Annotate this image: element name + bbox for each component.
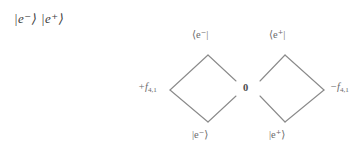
right-diamond-edge-bottom-right (285, 90, 324, 122)
diamond-diagram (0, 0, 364, 156)
right-diamond-edge-bottom-left (260, 96, 285, 122)
right-coupling-subscript: 4,1 (340, 86, 349, 94)
left-diamond-edge-top-left (170, 55, 208, 90)
left-diamond-edge-bottom-left (170, 90, 208, 122)
right-diamond-edges (260, 55, 324, 122)
left-diamond-edge-bottom-right (208, 96, 236, 122)
left-diamond-ket-label: |e⁻⟩ (192, 130, 208, 141)
figure-canvas: |e⁻⟩ |e⁺⟩ ⟨e⁻| ⟨e⁺| |e⁻⟩ |e⁺⟩ +f4,1 −f4,… (0, 0, 364, 156)
right-diamond-ket-label: |e⁺⟩ (269, 130, 285, 141)
right-coupling-label: −f4,1 (330, 82, 349, 93)
left-diamond-edges (170, 55, 236, 122)
center-zero-label: 0 (243, 83, 248, 94)
left-diamond-edge-top-right (208, 55, 236, 81)
right-diamond-edge-top-left (260, 55, 285, 81)
left-coupling-label: +f4,1 (138, 82, 157, 93)
right-coupling-symbol: −f (330, 81, 340, 92)
left-diamond-bra-label: ⟨e⁻| (192, 30, 208, 41)
left-coupling-subscript: 4,1 (148, 86, 157, 94)
right-diamond-bra-label: ⟨e⁺| (269, 30, 285, 41)
left-coupling-symbol: +f (138, 81, 148, 92)
right-diamond-edge-top-right (285, 55, 324, 90)
